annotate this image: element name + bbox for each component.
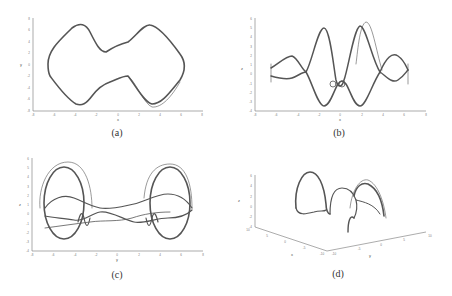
svg-text:-8: -8 [254,113,257,117]
svg-text:-4: -4 [74,253,77,257]
caption-c: (c) [97,269,137,280]
svg-text:-2: -2 [26,231,29,235]
svg-text:6: 6 [180,113,182,117]
svg-text:5: 5 [266,234,268,238]
plot-b: -8 -6 -4 -2 0 2 4 6 8 6 5 4 3 2 1 0 -1 -… [226,0,452,148]
caption-b: (b) [319,127,359,138]
svg-text:5: 5 [250,26,252,30]
svg-text:-4: -4 [74,113,77,117]
svg-text:0: 0 [380,243,382,247]
svg-text:-4: -4 [27,86,30,90]
svg-text:0: 0 [27,212,29,216]
svg-text:x: x [339,117,341,122]
svg-text:5: 5 [403,238,405,242]
svg-text:1: 1 [27,203,29,207]
y-ticks-b: 6 5 4 3 2 1 0 -1 -2 -3 -4 [249,17,252,113]
svg-text:-2: -2 [95,253,98,257]
svg-text:0: 0 [284,240,286,244]
svg-text:-10: -10 [332,252,337,256]
curve-a [48,25,185,108]
y-ticks-c: 6 5 4 3 2 1 0 -1 -2 -3 -4 [26,157,29,253]
curve-b [271,22,408,106]
svg-text:-6: -6 [27,97,30,101]
y-ticks-a: 8 6 4 2 0 -2 -4 -6 -8 [27,17,30,113]
svg-text:-6: -6 [53,113,56,117]
svg-text:-2: -2 [249,91,252,95]
svg-text:2: 2 [28,51,30,55]
svg-text:0: 0 [250,72,252,76]
svg-text:-4: -4 [26,249,29,253]
svg-text:-6: -6 [52,253,55,257]
svg-text:-10: -10 [320,252,325,256]
svg-text:-5: -5 [303,246,306,250]
svg-text:-8: -8 [27,109,30,113]
svg-text:2: 2 [138,253,140,257]
svg-text:-3: -3 [249,100,252,104]
svg-text:-4: -4 [297,113,300,117]
svg-text:4: 4 [382,113,384,117]
svg-text:-4: -4 [249,225,252,229]
curve-d [296,172,386,232]
svg-text:-4: -4 [249,109,252,113]
svg-text:y: y [116,257,118,262]
svg-text:3: 3 [27,185,29,189]
svg-text:x: x [291,252,293,257]
svg-text:z: z [19,202,21,207]
svg-text:4: 4 [250,35,252,39]
svg-text:6: 6 [180,253,182,257]
svg-text:1: 1 [250,63,252,67]
curve-c [40,162,192,239]
svg-text:6: 6 [27,157,29,161]
plot-a: -8 -6 -4 -2 0 2 4 6 8 8 6 4 2 0 -2 -4 -6… [0,0,226,148]
svg-text:10: 10 [428,234,432,238]
svg-text:z: z [238,198,240,203]
svg-text:x: x [117,117,119,122]
svg-text:8: 8 [201,113,203,117]
svg-text:2: 2 [138,113,140,117]
svg-text:8: 8 [202,253,204,257]
svg-text:6: 6 [250,174,252,178]
svg-text:4: 4 [250,184,252,188]
svg-text:-1: -1 [249,82,252,86]
svg-text:2: 2 [250,54,252,58]
svg-text:6: 6 [250,17,252,21]
svg-text:z: z [241,66,243,71]
svg-text:8: 8 [425,113,427,117]
svg-text:8: 8 [28,17,30,21]
svg-text:2: 2 [250,195,252,199]
svg-text:-2: -2 [27,74,30,78]
svg-text:-2: -2 [95,113,98,117]
svg-text:y: y [20,62,22,67]
svg-text:4: 4 [159,253,161,257]
svg-text:5: 5 [27,166,29,170]
caption-d: (d) [318,268,358,279]
panel-a: -8 -6 -4 -2 0 2 4 6 8 8 6 4 2 0 -2 -4 -6… [0,0,226,148]
x-ticks-d: 10 5 0 -5 -10 [246,228,324,256]
z-ticks-d: 6 4 2 0 -2 -4 [249,174,252,229]
svg-text:-5: -5 [358,247,361,251]
svg-text:-6: -6 [275,113,278,117]
svg-text:-8: -8 [32,113,35,117]
panel-c: -8 -6 -4 -2 0 2 4 6 8 6 5 4 3 2 1 0 -1 -… [0,148,226,296]
svg-text:6: 6 [28,28,30,32]
svg-text:-8: -8 [31,253,34,257]
svg-text:2: 2 [361,113,363,117]
svg-text:0: 0 [28,63,30,67]
svg-text:0: 0 [250,205,252,209]
svg-text:3: 3 [250,45,252,49]
y-ticks-d: -10 -5 0 5 10 [332,234,432,256]
caption-a: (a) [97,127,137,138]
svg-text:-2: -2 [318,113,321,117]
svg-text:y: y [369,253,371,258]
svg-text:4: 4 [27,175,29,179]
svg-text:4: 4 [159,113,161,117]
svg-text:6: 6 [403,113,405,117]
svg-text:-1: -1 [26,222,29,226]
svg-text:2: 2 [27,194,29,198]
svg-text:-2: -2 [249,215,252,219]
svg-text:4: 4 [28,40,30,44]
panel-d: 6 4 2 0 -2 -4 10 5 0 -5 -10 -10 -5 0 5 1… [226,148,452,296]
svg-text:10: 10 [246,228,250,232]
panel-b: -8 -6 -4 -2 0 2 4 6 8 6 5 4 3 2 1 0 -1 -… [226,0,452,148]
svg-text:-3: -3 [26,240,29,244]
